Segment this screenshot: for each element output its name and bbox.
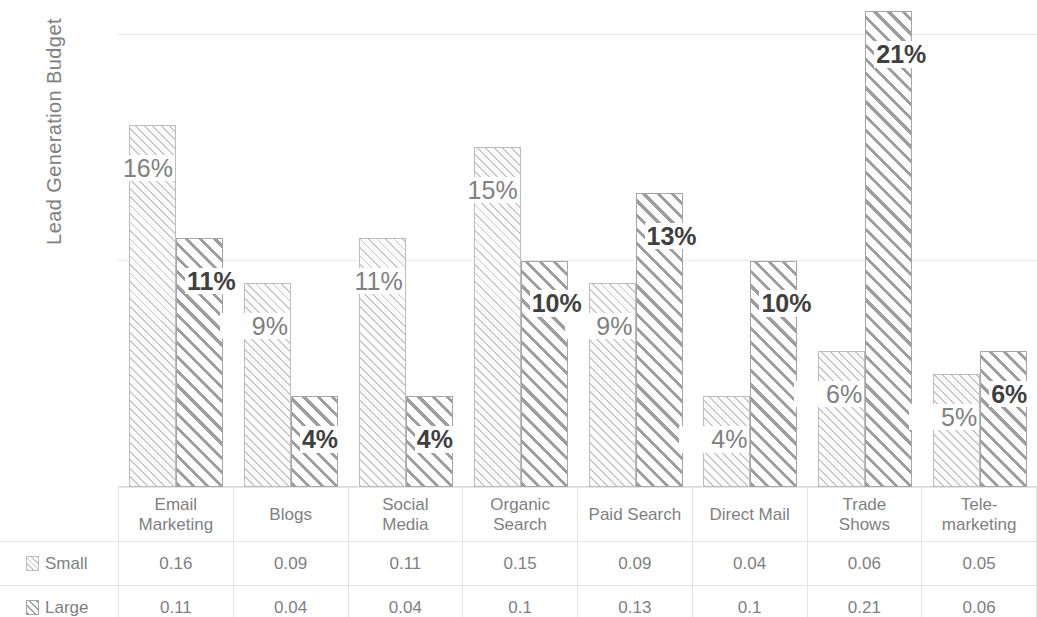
hatch-dark-swatch [26, 600, 39, 615]
table-header-category-5: Direct Mail [692, 488, 807, 542]
data-label-small-5: 4% [679, 426, 749, 452]
legend-label-large: Large [45, 598, 88, 617]
data-label-small-0: 16% [105, 155, 175, 181]
y-axis-title: Lead Generation Budget [43, 0, 66, 282]
table-cell-large-1: 0.04 [233, 586, 348, 617]
legend-item-large[interactable]: Large [0, 586, 119, 617]
hatch-light-swatch [26, 556, 39, 571]
bar-large-7[interactable] [980, 351, 1027, 487]
table-cell-large-5: 0.1 [692, 586, 807, 617]
table-cell-large-7: 0.06 [922, 586, 1037, 617]
data-label-large-6: 21% [874, 41, 928, 67]
table-corner-cell [0, 488, 119, 542]
table-cell-large-0: 0.11 [119, 586, 234, 617]
legend-item-small[interactable]: Small [0, 542, 119, 586]
table-header-category-7: Tele-marketing [922, 488, 1037, 542]
table-cell-large-4: 0.13 [578, 586, 693, 617]
table-header-category-0: EmailMarketing [119, 488, 234, 542]
table-cell-small-7: 0.05 [922, 542, 1037, 586]
table-cell-small-6: 0.06 [807, 542, 922, 586]
table-header-category-6: TradeShows [807, 488, 922, 542]
data-label-small-4: 9% [565, 313, 635, 339]
table-row-categories: EmailMarketingBlogsSocialMediaOrganicSea… [0, 488, 1037, 542]
legend-label-small: Small [45, 554, 88, 573]
table-cell-small-4: 0.09 [578, 542, 693, 586]
chart-page: Lead Generation Budget 0%10%20% 16%11%9%… [0, 0, 1037, 617]
table-cell-large-6: 0.21 [807, 586, 922, 617]
data-label-small-3: 15% [450, 177, 520, 203]
plot-area: 16%11%9%4%11%4%15%10%9%13%4%10%6%21%5%6% [118, 0, 1037, 487]
table-header-category-3: OrganicSearch [463, 488, 578, 542]
table-header-category-4: Paid Search [578, 488, 693, 542]
chart-data-table: EmailMarketingBlogsSocialMediaOrganicSea… [0, 487, 1037, 617]
data-label-large-2: 4% [415, 426, 455, 452]
table-cell-large-2: 0.04 [348, 586, 463, 617]
bar-large-6[interactable] [865, 11, 912, 487]
data-label-large-1: 4% [300, 426, 340, 452]
data-label-small-7: 5% [909, 404, 979, 430]
table-cell-large-3: 0.1 [463, 586, 578, 617]
table-header-category-1: Blogs [233, 488, 348, 542]
table-cell-small-0: 0.16 [119, 542, 234, 586]
table-cell-small-2: 0.11 [348, 542, 463, 586]
data-label-small-2: 11% [335, 268, 405, 294]
data-label-large-0: 11% [185, 268, 238, 294]
table-cell-small-5: 0.04 [692, 542, 807, 586]
table-cell-small-3: 0.15 [463, 542, 578, 586]
table-cell-small-1: 0.09 [233, 542, 348, 586]
bar-small-6[interactable] [818, 351, 865, 487]
data-label-large-7: 6% [989, 381, 1029, 407]
table-row-small: Small0.160.090.110.150.090.040.060.05 [0, 542, 1037, 586]
data-label-small-6: 6% [794, 381, 864, 407]
table-header-category-2: SocialMedia [348, 488, 463, 542]
table-row-large: Large0.110.040.040.10.130.10.210.06 [0, 586, 1037, 617]
data-label-large-5: 10% [759, 290, 813, 316]
data-label-small-1: 9% [220, 313, 290, 339]
data-label-large-4: 13% [645, 223, 699, 249]
